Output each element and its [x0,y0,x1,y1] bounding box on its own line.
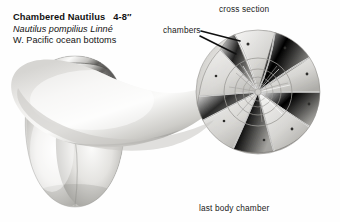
caption-scientific-name: Nautilus pompilius Linné [13,24,132,36]
caption-size: 4-8″ [113,12,131,22]
caption-habitat: W. Pacific ocean bottoms [13,35,132,47]
label-chambers: chambers [163,25,201,35]
species-caption: Chambered Nautilus 4-8″ Nautilus pompili… [13,12,132,47]
caption-common-name: Chambered Nautilus [13,12,105,22]
label-cross-section: cross section [219,4,269,14]
caption-common-name-line: Chambered Nautilus 4-8″ [13,12,132,24]
label-last-body-chamber: last body chamber [199,203,269,213]
spiral-protoconch [255,89,261,95]
